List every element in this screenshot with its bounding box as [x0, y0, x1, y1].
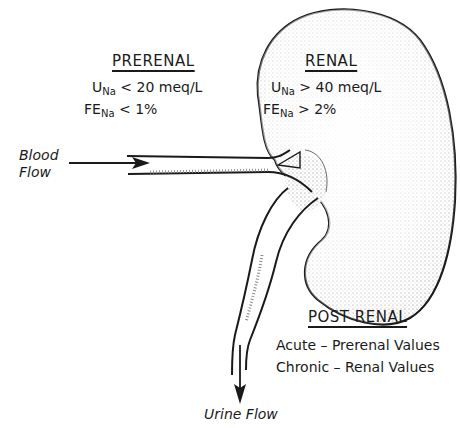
blood-flow-label: Blood Flow: [19, 147, 59, 181]
renal-fena-value: 2%: [314, 101, 336, 117]
postrenal-heading: POST RENAL: [308, 308, 407, 326]
renal-fena-line: FENa > 2%: [263, 100, 336, 123]
prerenal-fena-var: FE: [84, 101, 101, 117]
postrenal-acute-line: Acute – Prerenal Values: [276, 336, 440, 354]
renal-una-var: U: [271, 79, 281, 95]
prerenal-fena-line: FENa < 1%: [84, 100, 157, 123]
renal-una-value: 40 meq/L: [316, 79, 382, 95]
renal-una-op: >: [299, 79, 311, 95]
blood-flow-line1: Blood: [19, 147, 59, 164]
prerenal-fena-sub: Na: [101, 108, 115, 119]
prerenal-una-line: UNa < 20 meq/L: [92, 78, 202, 101]
prerenal-una-sub: Na: [102, 86, 116, 97]
prerenal-una-op: <: [120, 79, 132, 95]
urine-flow-arrow: [234, 380, 246, 404]
renal-una-line: UNa > 40 meq/L: [271, 78, 381, 101]
renal-heading: RENAL: [305, 52, 357, 70]
prerenal-fena-value: 1%: [135, 101, 157, 117]
renal-fena-sub: Na: [280, 108, 294, 119]
prerenal-heading: PRERENAL: [112, 52, 195, 70]
renal-fena-var: FE: [263, 101, 280, 117]
prerenal-una-value: 20 meq/L: [137, 79, 203, 95]
prerenal-una-var: U: [92, 79, 102, 95]
urine-flow-label: Urine Flow: [204, 406, 278, 423]
renal-una-sub: Na: [281, 86, 295, 97]
blood-flow-line2: Flow: [19, 164, 59, 181]
prerenal-fena-op: <: [119, 101, 131, 117]
postrenal-chronic-line: Chronic – Renal Values: [276, 358, 434, 376]
blood-flow-arrow: [69, 157, 150, 169]
renal-fena-op: >: [298, 101, 310, 117]
